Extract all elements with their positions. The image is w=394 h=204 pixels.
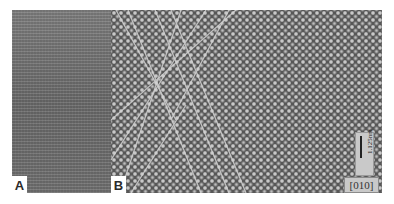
figure: A B 1.125nm [010]: [0, 0, 394, 204]
scale-bar-line: [360, 136, 362, 158]
zone-axis-label: [010]: [344, 177, 379, 193]
panel-b-image: [111, 10, 382, 193]
panel-label-b: B: [111, 176, 126, 193]
panel-label-a: A: [12, 176, 27, 193]
scale-bar: 1.125nm: [355, 132, 374, 176]
defect-lines: [111, 10, 382, 193]
panel-a-image: [12, 10, 111, 193]
scale-bar-label: 1.125nm: [366, 129, 374, 154]
